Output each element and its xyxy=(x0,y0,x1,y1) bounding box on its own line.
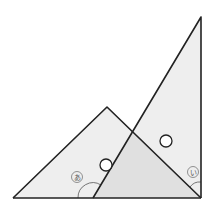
equal-mark-circle xyxy=(100,159,112,171)
triangle-diagram: あ い xyxy=(0,0,210,214)
angle-label-a-text: あ xyxy=(74,174,81,182)
angle-label-i-text: い xyxy=(190,169,197,177)
equal-mark-circle xyxy=(160,135,172,147)
